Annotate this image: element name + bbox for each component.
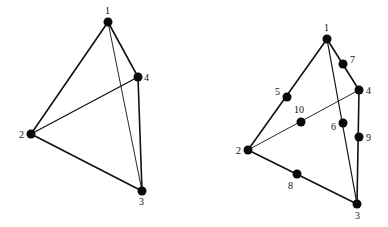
edge-1-2	[31, 22, 108, 134]
node-5-marker	[283, 93, 292, 102]
node-4-marker	[355, 86, 364, 95]
node-1-label: 1	[324, 22, 329, 33]
node-1-marker	[104, 18, 113, 27]
node-5-label: 5	[275, 86, 280, 97]
tetrahedron-diagram: 1234 12345678910	[0, 0, 388, 227]
edge-1-3	[108, 22, 142, 191]
node-9-label: 9	[366, 132, 371, 143]
edge-1-4	[108, 22, 138, 77]
node-3-label: 3	[355, 210, 360, 221]
node-4-label: 4	[144, 72, 149, 83]
node-2-label: 2	[236, 145, 241, 156]
node-10-label: 10	[294, 104, 304, 115]
node-2-marker	[244, 146, 253, 155]
node-6-marker	[339, 119, 348, 128]
node-1-label: 1	[105, 5, 110, 16]
edge-2-4	[31, 77, 138, 134]
node-3-label: 3	[139, 196, 144, 207]
edge-2-3	[31, 134, 142, 191]
linear-tetrahedron-4-node: 1234	[19, 5, 149, 207]
node-9-marker	[355, 133, 364, 142]
node-4-label: 4	[366, 85, 371, 96]
node-8-label: 8	[288, 180, 293, 191]
node-7-marker	[339, 60, 348, 69]
node-6-label: 6	[331, 121, 336, 132]
node-4-marker	[134, 73, 143, 82]
node-7-label: 7	[350, 54, 355, 65]
node-2-label: 2	[19, 129, 24, 140]
node-3-marker	[138, 187, 147, 196]
node-2-marker	[27, 130, 36, 139]
edge-2-3	[248, 150, 357, 204]
node-1-marker	[323, 35, 332, 44]
quadratic-tetrahedron-10-node: 12345678910	[236, 22, 371, 221]
edge-4-3	[357, 90, 359, 204]
node-10-marker	[297, 118, 306, 127]
node-3-marker	[353, 200, 362, 209]
node-8-marker	[293, 170, 302, 179]
